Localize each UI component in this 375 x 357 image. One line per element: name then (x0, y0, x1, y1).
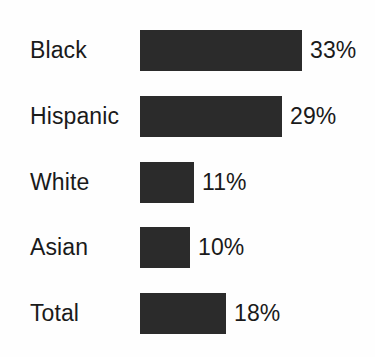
value-label-hispanic: 29% (290, 105, 336, 128)
category-label-hispanic: Hispanic (30, 105, 119, 128)
category-label-total: Total (30, 302, 79, 325)
bar-track: 29% (140, 96, 336, 137)
value-label-white: 11% (202, 171, 247, 194)
bar-white (140, 162, 194, 203)
bar-track: 10% (140, 227, 244, 268)
category-label-asian: Asian (30, 236, 88, 259)
bar-track: 18% (140, 293, 280, 334)
bar-row: White 11% (0, 162, 375, 203)
bar-row: Total 18% (0, 293, 375, 334)
category-label-white: White (30, 171, 89, 194)
category-label-black: Black (30, 39, 87, 62)
value-label-black: 33% (310, 39, 356, 62)
bar-hispanic (140, 96, 282, 137)
bar-track: 33% (140, 30, 356, 71)
horizontal-bar-chart: Black 33% Hispanic 29% White 11% Asian 1… (0, 0, 375, 357)
bar-asian (140, 227, 190, 268)
bar-row: Hispanic 29% (0, 96, 375, 137)
bar-row: Black 33% (0, 30, 375, 71)
value-label-asian: 10% (198, 236, 244, 259)
bar-total (140, 293, 226, 334)
bar-black (140, 30, 302, 71)
bar-row: Asian 10% (0, 227, 375, 268)
value-label-total: 18% (234, 302, 280, 325)
bar-track: 11% (140, 162, 247, 203)
